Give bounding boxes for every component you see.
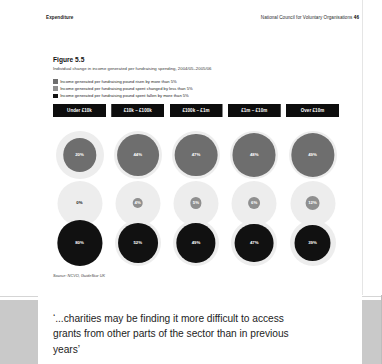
bubble-value: 80%: [75, 241, 84, 245]
legend-label-changed: Income generated per fundraising pound s…: [60, 86, 192, 91]
bubble-value: 49%: [192, 241, 201, 245]
page-number: 46: [354, 15, 359, 20]
page-rule-left: [0, 296, 38, 297]
bubble-changed: 12%: [305, 196, 320, 211]
legend-item: Income generated per fundraising pound s…: [53, 85, 283, 92]
bubble-value: 5%: [193, 201, 199, 205]
category-label: £100k – £1m: [182, 108, 209, 113]
bubble-value: 0%: [76, 201, 82, 205]
bubble-stack: 20%0%80%: [53, 118, 106, 266]
bubble-changed: 6%: [248, 197, 260, 209]
bubble-fallen: 39%: [294, 225, 331, 262]
figure-source: Source: NCVO, GuideStar UK: [53, 273, 105, 278]
bubble-value: 47%: [250, 241, 259, 245]
chart-column: Under £10k20%0%80%: [53, 104, 106, 266]
running-head-publisher: National Council for Voluntary Organisat…: [261, 15, 359, 20]
figure-number: Figure 5.5: [53, 56, 84, 63]
category-banner: Under £10k: [53, 104, 106, 117]
bubble-risen: 48%: [233, 133, 276, 176]
legend-label-risen: Income generated per fundraising pound r…: [60, 79, 176, 84]
bubble-value: 12%: [308, 201, 317, 205]
chart-column: £10k – £100k44%4%52%: [111, 104, 164, 266]
category-banner: £1m – £10m: [228, 104, 281, 117]
page-rule-right: [362, 296, 381, 297]
pull-quote: ‘...charities may be finding it more dif…: [53, 311, 311, 357]
bubble-value: 49%: [308, 153, 317, 157]
bubble-chart: Under £10k20%0%80%£10k – £100k44%4%52%£1…: [53, 104, 339, 266]
legend-item: Income generated per fundraising pound s…: [53, 92, 283, 99]
category-banner: £100k – £1m: [170, 104, 223, 117]
bubble-value: 48%: [250, 153, 259, 157]
bubble-stack: 44%4%52%: [111, 118, 164, 266]
bubble-fallen: 52%: [118, 223, 158, 263]
bubble-value: 52%: [133, 241, 142, 245]
publisher-name: National Council for Voluntary Organisat…: [261, 15, 352, 20]
bubble-stack: 48%6%47%: [228, 118, 281, 266]
legend-item: Income generated per fundraising pound r…: [53, 78, 283, 85]
bubble-value: 39%: [308, 241, 317, 245]
category-label: £10k – £100k: [124, 108, 152, 113]
page-right-margin: [362, 0, 382, 295]
running-head: Expenditure National Council for Volunta…: [46, 15, 359, 25]
category-banner: £10k – £100k: [111, 104, 164, 117]
legend-swatch-fallen: [53, 94, 58, 99]
running-head-section: Expenditure: [46, 15, 73, 20]
chart-legend: Income generated per fundraising pound r…: [53, 78, 283, 100]
chart-columns: Under £10k20%0%80%£10k – £100k44%4%52%£1…: [53, 104, 339, 266]
bubble-value: 44%: [133, 153, 142, 157]
legend-swatch-risen: [53, 79, 58, 84]
background-left: [0, 300, 38, 364]
bubble-changed: 4%: [132, 198, 143, 209]
category-banner: Over £10m: [286, 104, 339, 117]
bubble-risen: 47%: [175, 134, 218, 177]
page-left-margin: [0, 0, 39, 295]
bubble-fallen: 80%: [57, 220, 102, 265]
bubble-stack: 49%12%39%: [286, 118, 339, 266]
chart-column: £1m – £10m48%6%47%: [228, 104, 281, 266]
bubble-fallen: 47%: [235, 224, 274, 263]
chart-column: £100k – £1m47%5%49%: [170, 104, 223, 266]
figure-subtitle: Individual change in income generated pe…: [53, 66, 211, 71]
bubble-value: 47%: [192, 153, 201, 157]
legend-label-fallen: Income generated per fundraising pound s…: [60, 93, 189, 98]
bubble-value: 20%: [75, 153, 84, 157]
bubble-changed: 0%: [70, 198, 90, 208]
category-label: Over £10m: [301, 108, 324, 113]
legend-swatch-changed: [53, 86, 58, 91]
bubble-value: 6%: [251, 201, 257, 205]
background-right: [362, 300, 381, 364]
bubble-risen: 44%: [117, 134, 159, 176]
bubble-value: 4%: [135, 201, 141, 205]
bubble-stack: 47%5%49%: [170, 118, 223, 266]
category-label: £1m – £10m: [241, 108, 267, 113]
chart-column: Over £10m49%12%39%: [286, 104, 339, 266]
category-label: Under £10k: [67, 108, 92, 113]
